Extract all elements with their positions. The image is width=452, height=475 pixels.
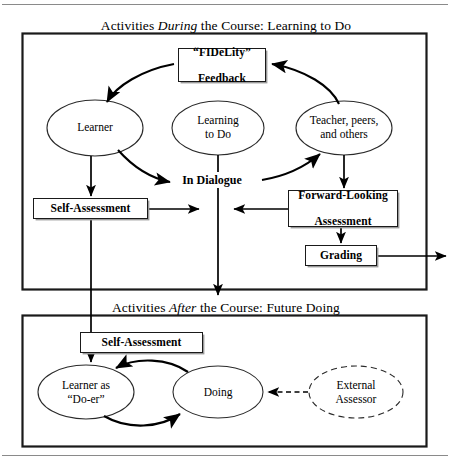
arrow-learner-to-dialogue <box>118 150 170 182</box>
forward-label-line1: Forward-Looking <box>289 189 397 202</box>
after-caption-emphasis: After <box>169 300 197 315</box>
ellipse-teacher-peers <box>296 101 392 155</box>
during-caption-prefix: Activities <box>101 18 158 33</box>
forward-looking-assessment-box: Forward-Looking Assessment <box>288 190 398 227</box>
ellipse-doing <box>173 366 263 418</box>
after-caption-suffix: the Course: Future Doing <box>196 300 340 315</box>
ellipse-external-assessor <box>309 366 403 418</box>
during-course-caption: Activities During the Course: Learning t… <box>0 19 452 33</box>
arrow-fidelity-to-learner <box>107 64 174 102</box>
grading-box: Grading <box>305 245 377 266</box>
arrow-doing-to-doer <box>116 361 188 372</box>
figure-page: Activities During the Course: Learning t… <box>0 0 452 475</box>
arrow-teacher-to-fidelity <box>272 64 339 104</box>
self-assessment-box-after: Self-Assessment <box>80 332 203 353</box>
fidelity-label-line1: “FIDeLity” <box>179 46 265 59</box>
ellipse-learning-to-do <box>172 101 264 155</box>
forward-label-line2: Assessment <box>289 215 397 228</box>
after-course-caption: Activities After the Course: Future Doin… <box>0 301 452 315</box>
arrow-dialogue-to-teacher <box>262 154 320 180</box>
self-assessment-after-label: Self-Assessment <box>81 336 202 349</box>
grading-label: Grading <box>306 249 376 262</box>
fidelity-label-line2: Feedback <box>179 72 265 85</box>
self-assessment-box-during: Self-Assessment <box>33 198 148 219</box>
arrow-doer-to-doing <box>104 414 180 426</box>
during-caption-emphasis: During <box>158 18 198 33</box>
self-assessment-during-label: Self-Assessment <box>34 202 147 215</box>
ellipse-learner-as-doer <box>38 365 134 419</box>
during-caption-suffix: the Course: Learning to Do <box>197 18 351 33</box>
ellipse-learner <box>47 100 143 156</box>
after-caption-prefix: Activities <box>112 300 169 315</box>
fidelity-feedback-box: “FIDeLity” Feedback <box>178 48 266 82</box>
